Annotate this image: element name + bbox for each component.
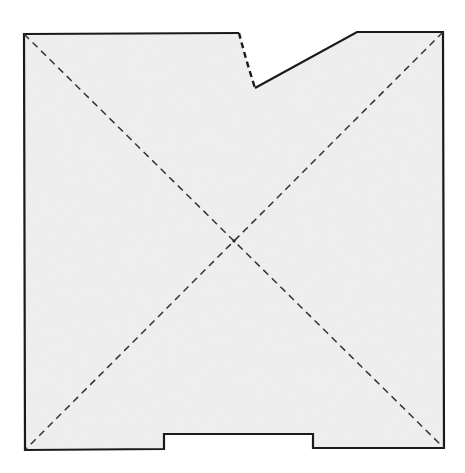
intersection-point <box>232 239 235 242</box>
pattern-diagram <box>0 0 465 473</box>
